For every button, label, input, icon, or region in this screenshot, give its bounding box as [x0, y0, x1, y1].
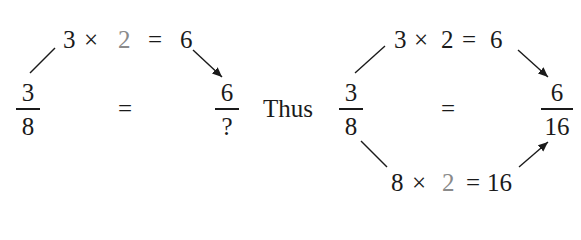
factor: 2	[442, 170, 455, 195]
numerator: 3	[16, 80, 40, 105]
numerator: 6	[215, 80, 239, 105]
result: 6	[180, 27, 193, 52]
fraction-bar	[215, 108, 239, 110]
right-up-arrow	[519, 142, 548, 167]
factor: 2	[441, 27, 454, 52]
left-down-arrow	[193, 50, 222, 77]
thus-label: Thus	[263, 96, 313, 121]
times-sign: ×	[412, 170, 426, 195]
left-fraction-b: 6 ?	[215, 80, 239, 139]
times-sign: ×	[84, 27, 98, 52]
right-fraction-a: 3 8	[339, 80, 363, 139]
result: 6	[490, 27, 503, 52]
denominator: 8	[16, 114, 40, 139]
factor: 2	[118, 27, 131, 52]
right-down-arrow	[518, 50, 548, 77]
right-up-line	[355, 46, 385, 73]
equals-sign: =	[462, 27, 476, 52]
equals-sign: =	[441, 96, 455, 121]
eq-term: 3	[394, 27, 407, 52]
equals-sign: =	[148, 27, 162, 52]
denominator: 8	[339, 114, 363, 139]
equals-sign: =	[118, 96, 132, 121]
right-fraction-b: 6 16	[541, 80, 573, 139]
eq-term: 3	[63, 27, 76, 52]
left-fraction-a: 3 8	[16, 80, 40, 139]
eq-term: 8	[391, 170, 404, 195]
result: 16	[487, 170, 512, 195]
fraction-bar	[16, 108, 40, 110]
fraction-bar	[339, 108, 363, 110]
numerator: 3	[339, 80, 363, 105]
numerator: 6	[541, 80, 573, 105]
right-lower-line	[361, 141, 387, 167]
denominator: ?	[215, 114, 239, 139]
left-up-line	[30, 48, 55, 73]
fraction-bar	[541, 108, 573, 110]
equals-sign: =	[466, 170, 480, 195]
times-sign: ×	[414, 27, 428, 52]
denominator: 16	[541, 114, 573, 139]
